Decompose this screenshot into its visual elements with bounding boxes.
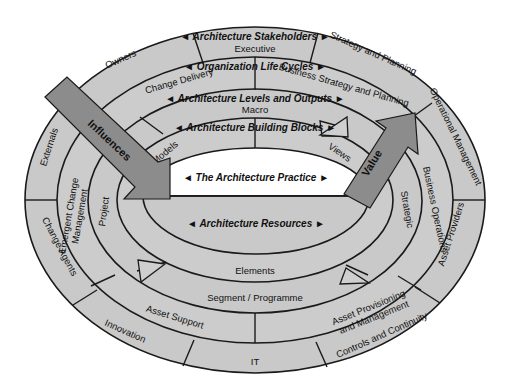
ring-title-stakeholders: ◄ Architecture Stakeholders ► <box>180 31 329 42</box>
segment-it: IT <box>251 356 260 367</box>
ring-title-building-blocks: ◄ Architecture Building Blocks ► <box>174 122 336 133</box>
center-top-label: ◄ The Architecture Practice ► <box>183 172 329 183</box>
architecture-practice-diagram: ◄ Architecture Stakeholders ► Executive … <box>0 0 510 391</box>
segment-executive: Executive <box>234 43 275 54</box>
segment-macro: Macro <box>242 104 268 115</box>
center-bottom-label: ◄ Architecture Resources ► <box>187 218 325 229</box>
segment-segment-programme: Segment / Programme <box>207 292 303 303</box>
ring-title-levels: ◄ Architecture Levels and Outputs ► <box>165 93 344 104</box>
segment-elements: Elements <box>235 265 275 276</box>
